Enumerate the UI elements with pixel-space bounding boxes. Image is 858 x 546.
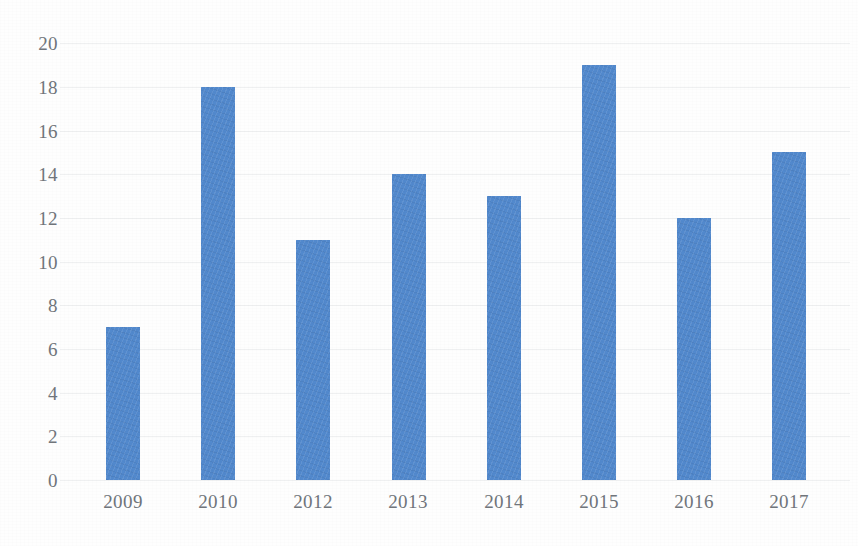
bar-2013[interactable] xyxy=(392,174,426,480)
bar-2015[interactable] xyxy=(582,65,616,480)
bar-2016[interactable] xyxy=(677,218,711,480)
bar-chart: 20 18 16 14 12 10 8 6 4 2 0 2009 2010 20… xyxy=(0,0,858,546)
bars-layer xyxy=(0,0,858,546)
bar-2012[interactable] xyxy=(296,240,330,480)
bar-2017[interactable] xyxy=(772,152,806,480)
bar-2010[interactable] xyxy=(201,87,235,480)
bar-2014[interactable] xyxy=(487,196,521,480)
bar-2009[interactable] xyxy=(106,327,140,480)
